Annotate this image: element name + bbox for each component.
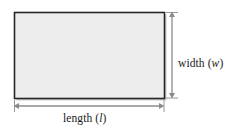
length-dimension-arrow (14, 100, 165, 112)
width-label-suffix: ) (219, 57, 223, 69)
rectangle-shape (15, 13, 165, 99)
length-label-prefix: length ( (63, 112, 99, 124)
width-label-prefix: width ( (178, 57, 212, 69)
rectangle-dimension-figure: width (w) length (l) (0, 0, 238, 131)
width-dimension-label: width (w) (178, 58, 223, 70)
length-dimension-label: length (l) (63, 113, 106, 125)
length-label-suffix: ) (103, 112, 107, 124)
width-dimension-arrow (166, 12, 178, 99)
